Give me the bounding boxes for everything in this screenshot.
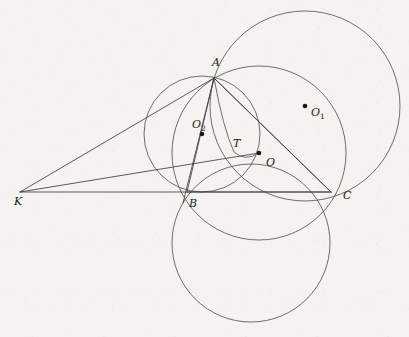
segment-A-through-T-and-O-to-C (214, 78, 331, 192)
point-label-O: O (266, 156, 275, 169)
point-label-A: A (211, 56, 220, 69)
point-label-subscript-O1: 1 (320, 112, 325, 121)
point-label-B: B (188, 197, 197, 210)
point-dot-O (257, 151, 262, 156)
segments-group (20, 78, 331, 203)
point-label-T: T (233, 137, 242, 150)
point-dots-group (200, 104, 308, 156)
point-dot-O1 (303, 104, 308, 109)
point-label-O1: O1 (311, 106, 325, 121)
point-label-C: C (343, 189, 352, 202)
geometry-canvas: ABCKOTO1O2 (0, 0, 409, 337)
point-label-subscript-O2: 2 (201, 124, 206, 133)
segment-K-to-A (20, 78, 214, 192)
segment-K-to-O (20, 153, 259, 192)
geometry-figure: ABCKOTO1O2 (0, 0, 409, 337)
point-label-K: K (13, 195, 23, 208)
lower-circle-through-B-and-C (172, 164, 330, 322)
